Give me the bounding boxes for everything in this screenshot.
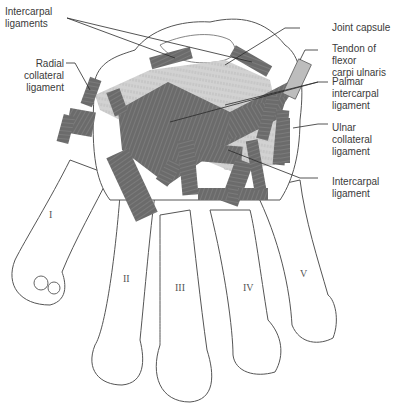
- label-line: collateral: [20, 70, 64, 82]
- label-line: Radial: [20, 58, 64, 70]
- label-line: Tendon of flexor: [332, 43, 403, 67]
- label-joint-capsule: Joint capsule: [332, 22, 390, 34]
- label-line: ligament: [332, 100, 379, 112]
- digit-label-i: I: [49, 209, 52, 220]
- hand-ligament-diagram: Intercarpal ligaments Radial collateral …: [0, 0, 403, 412]
- label-palmar-intercarpal-ligament: Palmar intercarpal ligament: [332, 76, 379, 112]
- label-line: intercarpal: [332, 88, 379, 100]
- label-line: Intercarpal: [332, 176, 379, 188]
- label-intercarpal-ligament: Intercarpal ligament: [332, 176, 379, 200]
- label-tendon-flexor-carpi-ulnaris: Tendon of flexor carpi ulnaris: [332, 43, 403, 79]
- digit-label-iii: III: [175, 282, 185, 293]
- label-line: ligaments: [5, 18, 52, 30]
- label-intercarpal-ligaments: Intercarpal ligaments: [5, 6, 52, 30]
- label-radial-collateral-ligament: Radial collateral ligament: [20, 58, 64, 94]
- digit-label-v: V: [300, 268, 307, 279]
- label-line: Ulnar: [332, 122, 372, 134]
- label-line: Palmar: [332, 76, 379, 88]
- label-line: Intercarpal: [5, 6, 52, 18]
- label-line: ligament: [20, 82, 64, 94]
- digit-label-iv: IV: [243, 282, 254, 293]
- label-line: collateral: [332, 134, 372, 146]
- label-line: ligament: [332, 188, 379, 200]
- digit-label-ii: II: [123, 273, 130, 284]
- label-line: ligament: [332, 146, 372, 158]
- label-ulnar-collateral-ligament: Ulnar collateral ligament: [332, 122, 372, 158]
- label-line: Joint capsule: [332, 22, 390, 34]
